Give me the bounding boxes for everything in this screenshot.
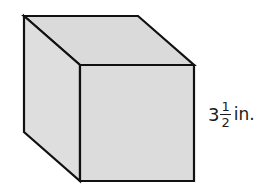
cube-front-face [80, 65, 194, 181]
fraction-denominator: 2 [221, 115, 229, 129]
edge-length-label: 3 1 2 in. [208, 100, 255, 129]
cube-shape [0, 0, 274, 188]
edge-length-fraction: 1 2 [220, 100, 230, 129]
cube-diagram: 3 1 2 in. [0, 0, 274, 188]
fraction-numerator: 1 [220, 100, 230, 115]
edge-length-whole: 3 [208, 106, 219, 124]
edge-length-unit: in. [234, 106, 255, 123]
